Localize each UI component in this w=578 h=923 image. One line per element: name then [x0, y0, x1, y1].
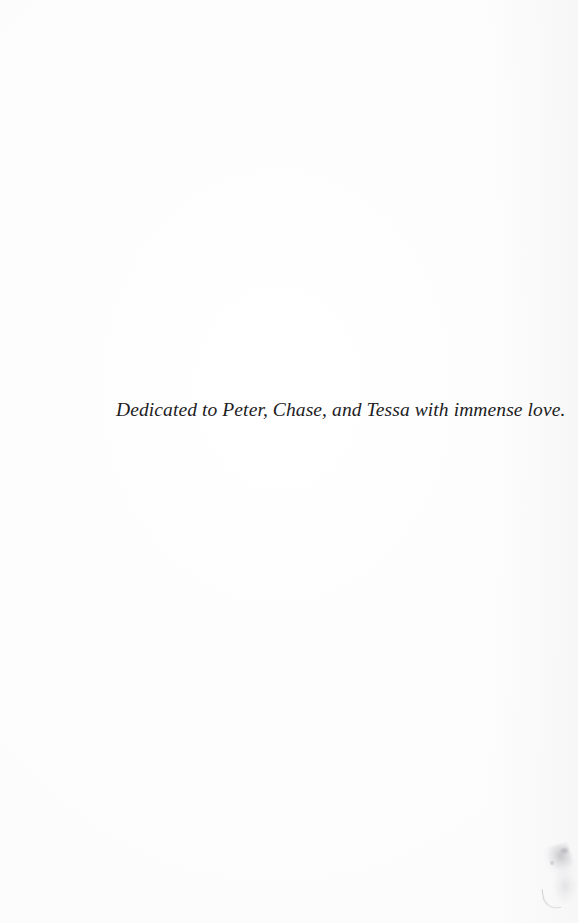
scan-edge-shading: [488, 0, 578, 923]
paper-texture: [0, 0, 578, 923]
corner-scan-artifact: [520, 837, 578, 923]
smudge-upper: [542, 842, 575, 878]
scan-speck-upper: [561, 848, 568, 853]
scan-speck-lower: [550, 861, 554, 865]
dedication-page: Dedicated to Peter, Chase, and Tessa wit…: [0, 0, 578, 923]
page-curl-hook: [542, 887, 562, 910]
smudge-lower: [554, 869, 576, 903]
dedication-text: Dedicated to Peter, Chase, and Tessa wit…: [116, 398, 516, 422]
dedication-block: Dedicated to Peter, Chase, and Tessa wit…: [116, 398, 516, 422]
